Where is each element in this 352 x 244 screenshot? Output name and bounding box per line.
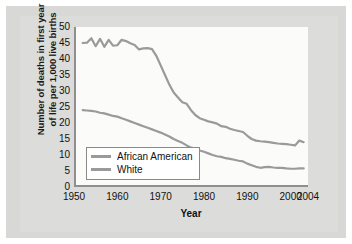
x-axis-tick: 1970 (150, 191, 172, 202)
y-axis-tick: 35 (48, 70, 70, 80)
x-axis-tick: 1990 (236, 191, 258, 202)
legend-swatch-icon (91, 155, 111, 158)
legend-label: African American (117, 151, 193, 162)
x-axis-tick: 1980 (193, 191, 215, 202)
legend-item-african-american: African American (91, 150, 193, 163)
y-axis-tick: 50 (48, 22, 70, 32)
x-axis-tick: 2004 (297, 191, 319, 202)
y-axis-tick: 5 (48, 166, 70, 176)
y-axis-tick: 30 (48, 86, 70, 96)
chart-legend: African American White (86, 147, 200, 180)
y-axis-tick: 20 (48, 118, 70, 128)
y-axis-label-line-1: Number of deaths in first year (35, 0, 47, 150)
y-axis-tick: 45 (48, 38, 70, 48)
legend-label: White (117, 164, 143, 175)
y-axis-tick-labels: 05101520253035404550 (48, 27, 70, 187)
y-axis-tick: 10 (48, 150, 70, 160)
x-axis-tick: 1950 (63, 191, 85, 202)
x-axis-tick-labels: 1950196019701980199020002004 (74, 191, 308, 205)
x-axis-label: Year (74, 208, 308, 219)
y-axis-tick: 40 (48, 54, 70, 64)
series-line (83, 38, 304, 145)
legend-item-white: White (91, 163, 193, 176)
legend-swatch-icon (91, 168, 111, 171)
y-axis-tick: 25 (48, 102, 70, 112)
chart-page: Number of deaths in first year of life p… (0, 0, 352, 244)
y-axis-tick: 15 (48, 134, 70, 144)
x-axis-tick: 1960 (106, 191, 128, 202)
